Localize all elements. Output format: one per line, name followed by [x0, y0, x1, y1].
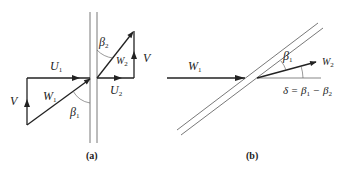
- label-w1-b: W1: [188, 59, 202, 74]
- w2-vector-b: [257, 62, 316, 78]
- label-beta1-b: β1: [282, 49, 293, 64]
- beta1-arc: [73, 91, 90, 103]
- label-u1: U1: [50, 59, 63, 74]
- w1-arrowhead-icon: [235, 75, 245, 81]
- label-v-left: V: [10, 94, 19, 108]
- label-beta2: β2: [98, 35, 109, 50]
- w1-vector: [27, 79, 90, 125]
- label-delta-equation: δ = β1 − β2: [283, 84, 332, 98]
- label-v-right: V: [143, 51, 152, 65]
- u1-arrowhead-icon: [72, 75, 80, 81]
- caption-a: (a): [86, 150, 98, 162]
- label-w2-b: W2: [322, 56, 334, 69]
- panel-a: U1 U2 W1 W2 V V β1 β2 (a): [10, 12, 152, 162]
- caption-b: (b): [246, 150, 258, 162]
- label-w1: W1: [43, 89, 57, 104]
- panel-b: W1 W2 β1 δ = β1 − β2 (b): [167, 23, 334, 162]
- label-w2: W2: [116, 55, 128, 68]
- u2-arrowhead-icon: [114, 75, 122, 81]
- delta-arc: [301, 66, 303, 78]
- blade-line-upper: [177, 23, 318, 130]
- blade-line-lower: [181, 28, 323, 135]
- label-beta1: β1: [69, 105, 80, 120]
- beta2-arc: [97, 50, 113, 58]
- label-u2: U2: [110, 83, 123, 98]
- v-left-arrowhead-icon: [24, 99, 30, 107]
- v-right-arrowhead-icon: [131, 51, 137, 59]
- velocity-triangle-diagram: U1 U2 W1 W2 V V β1 β2 (a) W1 W2 β1 δ = β…: [0, 0, 345, 180]
